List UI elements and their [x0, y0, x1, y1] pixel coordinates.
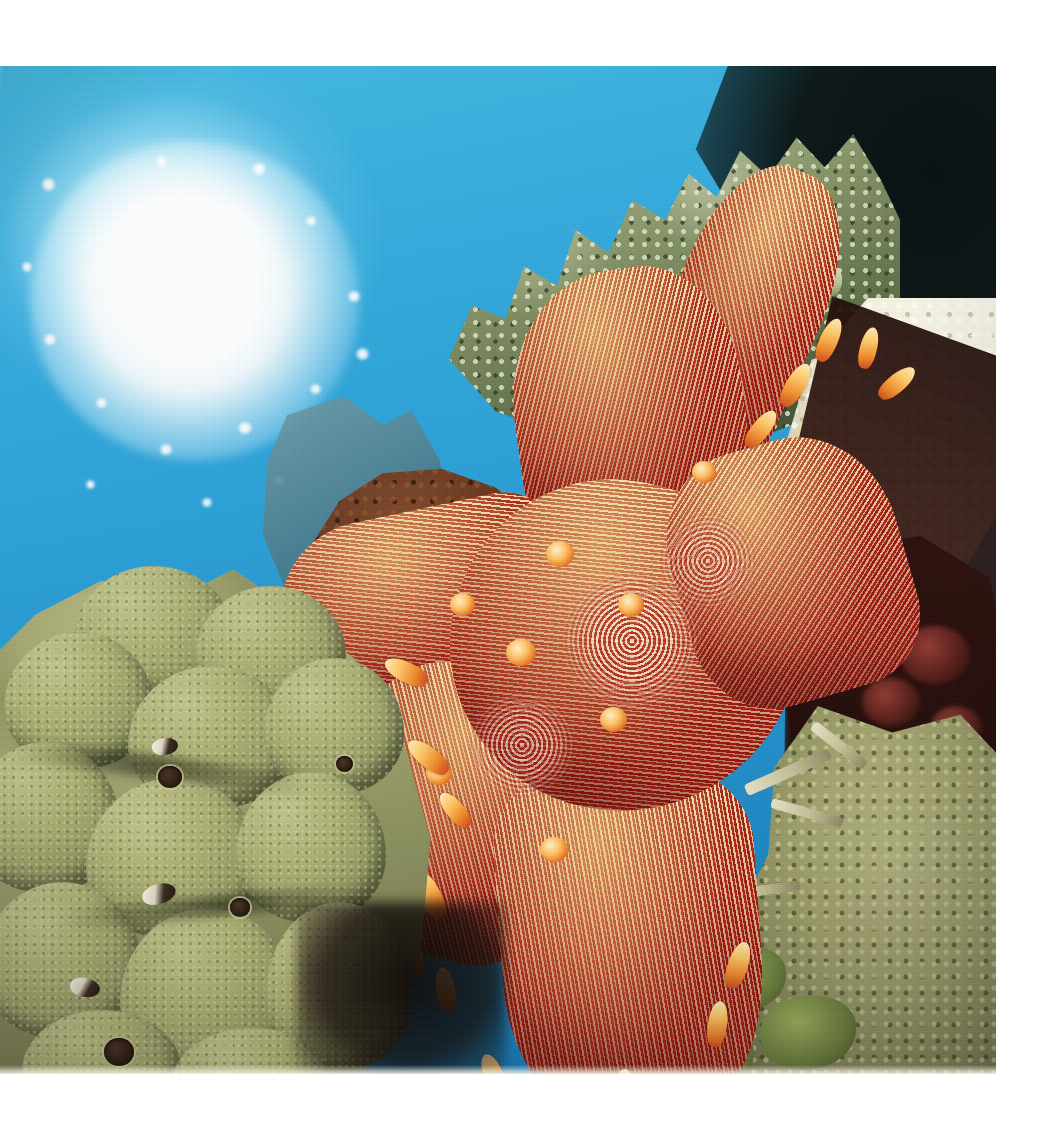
sea-star-ossicle-swirl [466, 689, 578, 801]
light-sparkle [128, 202, 144, 216]
reef-shadow-lower-left [296, 902, 506, 1074]
page-root [0, 0, 1051, 1134]
sea-star-ossicle [618, 593, 644, 617]
sea-star-ossicle [450, 593, 475, 616]
light-sparkle [238, 422, 252, 434]
light-sparkle [96, 398, 107, 408]
light-sparkle [252, 163, 266, 175]
sea-star-ossicle [540, 837, 568, 862]
sea-star-ossicle [546, 541, 574, 567]
light-sparkle [22, 262, 32, 272]
photo-bottom-fade [0, 1065, 996, 1074]
sea-star-ossicle-swirl [656, 509, 760, 613]
sea-star-spine [855, 326, 882, 371]
sea-star-spine [874, 362, 919, 404]
light-sparkle [86, 480, 95, 489]
sea-star-ossicle [692, 461, 716, 483]
light-sparkle [202, 498, 212, 507]
coral-polyp-hole [104, 1038, 134, 1066]
light-sparkle [306, 216, 316, 226]
light-sparkle [44, 334, 56, 345]
underwater-coral-reef-photo [0, 66, 996, 1074]
sea-star-ossicle [600, 707, 627, 732]
coral-polyp-hole [230, 898, 250, 917]
coral-polyp-hole [336, 756, 353, 772]
coral-polyp-hole [158, 766, 182, 788]
light-sparkle [42, 178, 55, 191]
light-sparkle [160, 444, 172, 455]
sea-star-ossicle [506, 639, 536, 666]
light-sparkle [156, 156, 167, 167]
